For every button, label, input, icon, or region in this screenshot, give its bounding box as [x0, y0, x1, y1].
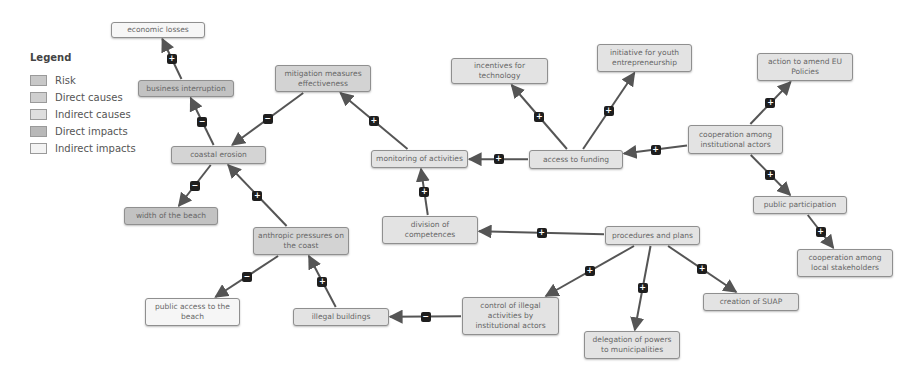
- node-business-interruption[interactable]: business interruption: [138, 80, 234, 97]
- plus-sign-badge: +: [494, 154, 504, 164]
- legend-label: Direct causes: [55, 92, 123, 103]
- node-label: width of the beach: [136, 211, 206, 221]
- plus-sign-badge: +: [369, 116, 379, 126]
- node-incentives-for-technology[interactable]: incentives for technology: [451, 58, 548, 84]
- node-label: economic losses: [127, 25, 189, 35]
- legend-title: Legend: [30, 52, 136, 63]
- node-monitoring-of-activities[interactable]: monitoring of activities: [371, 150, 468, 168]
- node-label: public participation: [764, 200, 836, 210]
- plus-sign-badge: +: [419, 187, 429, 197]
- node-label: action to amend EU Policies: [761, 57, 849, 77]
- node-delegation-of-powers-to-municipalities[interactable]: delegation of powers to municipalities: [584, 331, 680, 359]
- node-access-to-funding[interactable]: access to funding: [529, 150, 623, 169]
- plus-sign-badge: +: [252, 191, 262, 201]
- legend-swatch-direct-impacts: [30, 126, 47, 137]
- plus-sign-badge: +: [697, 264, 707, 274]
- plus-sign-badge: +: [317, 277, 327, 287]
- node-label: procedures and plans: [612, 231, 693, 241]
- plus-sign-badge: +: [765, 98, 775, 108]
- legend-label: Direct impacts: [55, 126, 128, 137]
- legend-label: Indirect causes: [55, 109, 131, 120]
- node-procedures-and-plans[interactable]: procedures and plans: [605, 226, 700, 245]
- node-label: division of competences: [386, 220, 474, 240]
- legend-swatch-direct-causes: [30, 92, 47, 103]
- node-mitigation-measures-effectiveness[interactable]: mitigation measures effectiveness: [275, 65, 371, 92]
- legend-label: Indirect impacts: [55, 143, 136, 154]
- node-label: initiative for youth entrepreneurship: [601, 48, 688, 68]
- node-coastal-erosion[interactable]: coastal erosion: [171, 146, 266, 164]
- node-label: illegal buildings: [312, 312, 371, 322]
- minus-sign-badge: −: [197, 117, 207, 127]
- legend: Legend Risk Direct causes Indirect cause…: [30, 52, 136, 157]
- node-width-of-the-beach[interactable]: width of the beach: [124, 207, 218, 225]
- node-label: incentives for technology: [455, 61, 544, 81]
- plus-sign-badge: +: [585, 266, 595, 276]
- legend-swatch-indirect-impacts: [30, 143, 47, 154]
- plus-sign-badge: +: [604, 106, 614, 116]
- plus-sign-badge: +: [537, 228, 547, 238]
- legend-item-indirect-causes: Indirect causes: [30, 106, 136, 123]
- node-label: cooperation among institutional actors: [692, 130, 779, 150]
- node-label: monitoring of activities: [376, 154, 463, 164]
- plus-sign-badge: +: [765, 170, 775, 180]
- legend-item-direct-causes: Direct causes: [30, 89, 136, 106]
- node-control-of-illegal-activities[interactable]: control of illegal activities by institu…: [462, 297, 559, 335]
- plus-sign-badge: +: [534, 112, 544, 122]
- node-action-to-amend-eu-policies[interactable]: action to amend EU Policies: [757, 53, 853, 81]
- legend-item-direct-impacts: Direct impacts: [30, 123, 136, 140]
- minus-sign-badge: −: [421, 312, 431, 322]
- node-cooperation-among-institutional-actors[interactable]: cooperation among institutional actors: [688, 125, 783, 154]
- node-label: public access to the beach: [149, 302, 236, 322]
- legend-label: Risk: [55, 75, 76, 86]
- node-public-access-to-the-beach[interactable]: public access to the beach: [145, 298, 240, 326]
- legend-item-risk: Risk: [30, 72, 136, 89]
- node-cooperation-among-local-stakeholders[interactable]: cooperation among local stakeholders: [797, 249, 893, 277]
- node-label: anthropic pressures on the coast: [257, 231, 345, 251]
- legend-swatch-indirect-causes: [30, 109, 47, 120]
- node-label: access to funding: [543, 155, 609, 165]
- node-label: creation of SUAP: [720, 297, 783, 307]
- node-initiative-for-youth-entrepreneurship[interactable]: initiative for youth entrepreneurship: [597, 44, 692, 72]
- node-label: coastal erosion: [190, 150, 247, 160]
- legend-swatch-risk: [30, 75, 47, 86]
- node-label: business interruption: [146, 84, 225, 94]
- plus-sign-badge: +: [167, 54, 177, 64]
- node-public-participation[interactable]: public participation: [753, 196, 847, 214]
- node-anthropic-pressures[interactable]: anthropic pressures on the coast: [253, 227, 349, 255]
- node-label: mitigation measures effectiveness: [279, 69, 367, 89]
- plus-sign-badge: +: [638, 283, 648, 293]
- plus-sign-badge: +: [816, 227, 826, 237]
- node-economic-losses[interactable]: economic losses: [111, 22, 205, 38]
- legend-item-indirect-impacts: Indirect impacts: [30, 140, 136, 157]
- minus-sign-badge: −: [242, 272, 252, 282]
- node-division-of-competences[interactable]: division of competences: [382, 216, 478, 244]
- node-illegal-buildings[interactable]: illegal buildings: [293, 308, 389, 326]
- node-creation-of-suap[interactable]: creation of SUAP: [703, 293, 799, 311]
- plus-sign-badge: +: [651, 145, 661, 155]
- minus-sign-badge: −: [190, 181, 200, 191]
- node-label: cooperation among local stakeholders: [801, 253, 889, 273]
- minus-sign-badge: −: [263, 114, 273, 124]
- node-label: control of illegal activities by institu…: [466, 301, 555, 331]
- node-label: delegation of powers to municipalities: [588, 335, 676, 355]
